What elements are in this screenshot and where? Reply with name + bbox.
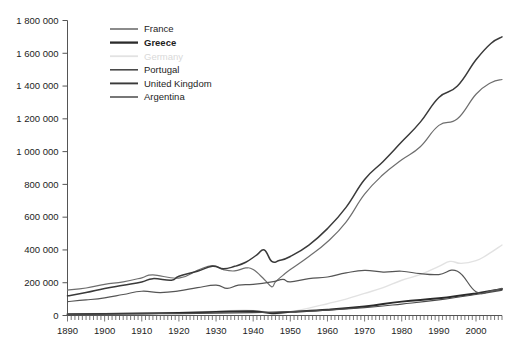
- y-tick-label: 0: [53, 310, 58, 321]
- x-tick-label: 1980: [391, 325, 412, 336]
- x-tick-label: 1970: [354, 325, 375, 336]
- legend-label-germany: Germany: [144, 51, 183, 62]
- x-tick-label: 1900: [94, 325, 115, 336]
- y-tick-label: 200 000: [24, 277, 58, 288]
- chart-container: 0200 000400 000600 000800 0001 000 0001 …: [0, 0, 508, 352]
- y-tick-label: 1 400 000: [16, 80, 58, 91]
- x-tick-label: 1950: [280, 325, 301, 336]
- x-tick-label: 1920: [168, 325, 189, 336]
- legend-label-argentina: Argentina: [144, 91, 185, 102]
- legend-label-united-kingdom: United Kingdom: [144, 78, 212, 89]
- x-tick-label: 1930: [205, 325, 226, 336]
- x-tick-label: 1910: [131, 325, 152, 336]
- legend-label-greece: Greece: [144, 37, 176, 48]
- y-tick-label: 1 200 000: [16, 113, 58, 124]
- y-tick-label: 1 000 000: [16, 146, 58, 157]
- x-tick-label: 1960: [317, 325, 338, 336]
- series-line-argentina: [68, 270, 503, 301]
- x-tick-label: 1890: [57, 325, 78, 336]
- x-tick-label: 1940: [243, 325, 264, 336]
- line-chart: 0200 000400 000600 000800 0001 000 0001 …: [0, 0, 508, 352]
- legend-label-portugal: Portugal: [144, 64, 179, 75]
- y-tick-label: 800 000: [24, 179, 58, 190]
- y-tick-label: 1 800 000: [16, 15, 58, 26]
- x-tick-label: 1990: [428, 325, 449, 336]
- legend-label-france: France: [144, 23, 174, 34]
- x-tick-label: 2000: [465, 325, 486, 336]
- y-tick-label: 600 000: [24, 211, 58, 222]
- y-tick-label: 400 000: [24, 244, 58, 255]
- series-line-united-kingdom: [68, 37, 503, 296]
- y-tick-label: 1 600 000: [16, 48, 58, 59]
- series-line-portugal: [68, 290, 503, 314]
